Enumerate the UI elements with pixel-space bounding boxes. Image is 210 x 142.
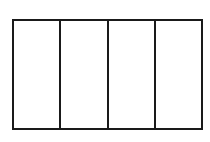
rectangle-part-4 [156, 21, 201, 128]
rectangle-part-3 [109, 21, 156, 128]
divided-rectangle [12, 19, 203, 130]
rectangle-part-2 [61, 21, 108, 128]
rectangle-part-1 [14, 21, 61, 128]
